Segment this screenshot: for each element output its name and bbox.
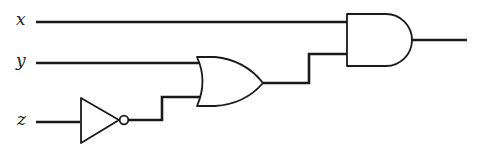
and-gate-body — [347, 14, 412, 66]
not-gate — [81, 98, 128, 143]
logic-circuit-diagram: x y z — [0, 0, 485, 154]
wire-not-to-or — [128, 97, 200, 120]
and-gate — [347, 14, 412, 66]
input-label-z: z — [17, 111, 26, 128]
or-gate-body — [197, 57, 263, 106]
not-gate-bubble — [120, 116, 129, 125]
wire-or-to-and — [263, 54, 348, 83]
or-gate — [197, 57, 263, 106]
input-label-x: x — [16, 11, 26, 28]
not-gate-triangle — [81, 98, 119, 143]
circuit-svg — [0, 0, 485, 154]
input-label-y: y — [16, 52, 26, 69]
